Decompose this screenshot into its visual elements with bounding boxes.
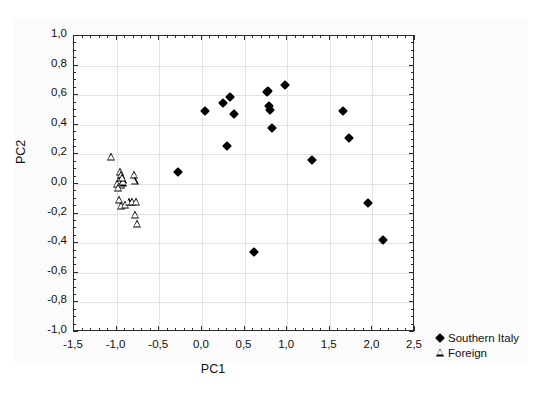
y-axis-tick xyxy=(73,213,78,214)
y-tick-label: 0,8 xyxy=(23,57,67,69)
x-axis-tick xyxy=(244,326,245,331)
data-point-diamond xyxy=(307,155,317,165)
gridline-horizontal xyxy=(74,214,413,215)
y-tick-label: 0,2 xyxy=(23,145,67,157)
y-axis-tick xyxy=(411,250,414,251)
x-axis-tick xyxy=(209,35,210,38)
y-axis-tick xyxy=(409,272,414,273)
legend-item-southern-italy[interactable]: Southern Italy xyxy=(432,330,519,345)
triangle-inner-fill xyxy=(134,221,140,226)
gridline-horizontal xyxy=(74,95,413,96)
x-axis-tick xyxy=(150,35,151,38)
y-axis-tick xyxy=(411,72,414,73)
legend: Southern ItalyForeign xyxy=(432,330,519,360)
plot-area xyxy=(73,35,414,331)
x-axis-tick xyxy=(107,328,108,331)
x-tick-label: 0,5 xyxy=(220,338,268,350)
y-tick-label: 0,0 xyxy=(23,175,67,187)
gridline-horizontal xyxy=(74,154,413,155)
data-point-diamond xyxy=(229,109,239,119)
y-axis-tick xyxy=(73,72,76,73)
y-axis-tick xyxy=(411,190,414,191)
gridline-horizontal xyxy=(74,273,413,274)
x-axis-tick xyxy=(82,328,83,331)
x-axis-tick xyxy=(286,35,287,40)
y-tick-label: -0,8 xyxy=(23,293,67,305)
y-axis-tick xyxy=(411,324,414,325)
y-axis-tick xyxy=(411,146,414,147)
y-axis-tick xyxy=(73,287,76,288)
x-axis-tick xyxy=(397,35,398,38)
x-tick-label: 0,0 xyxy=(177,338,225,350)
y-tick-label: 1,0 xyxy=(23,27,67,39)
y-axis-title-text: PC2 xyxy=(14,140,28,164)
x-axis-tick xyxy=(184,328,185,331)
x-axis-tick xyxy=(192,35,193,38)
x-axis-tick xyxy=(295,328,296,331)
y-tick-label: 0,4 xyxy=(23,116,67,128)
x-axis-tick xyxy=(133,328,134,331)
y-axis-tick xyxy=(73,198,76,199)
gridline-vertical xyxy=(330,36,331,330)
y-axis-tick xyxy=(73,87,76,88)
x-axis-tick xyxy=(303,35,304,38)
y-axis-title: PC2 xyxy=(14,140,28,164)
y-axis-tick xyxy=(73,42,76,43)
y-axis-tick xyxy=(411,139,414,140)
x-axis-tick xyxy=(116,326,117,331)
data-point-triangle xyxy=(133,220,141,228)
y-axis-tick xyxy=(73,279,76,280)
y-axis-tick xyxy=(411,79,414,80)
y-axis-tick xyxy=(411,279,414,280)
gridline-vertical xyxy=(159,36,160,330)
triangle-inner-fill xyxy=(108,155,114,160)
y-axis-tick xyxy=(73,242,78,243)
y-axis-tick xyxy=(411,316,414,317)
y-axis-tick xyxy=(409,94,414,95)
x-axis-tick xyxy=(201,326,202,331)
x-axis-tick xyxy=(99,35,100,38)
data-point-diamond xyxy=(265,105,275,115)
y-axis-tick xyxy=(411,220,414,221)
y-axis-tick xyxy=(73,227,76,228)
data-point-triangle xyxy=(107,153,115,161)
scatter-plot-figure: -1,5-1,0-0,50,00,51,01,52,02,5 1,00,80,6… xyxy=(0,0,542,397)
x-axis-tick xyxy=(167,35,168,38)
y-tick-label: -1,0 xyxy=(23,323,67,335)
y-axis-tick xyxy=(73,176,76,177)
x-axis-tick xyxy=(337,328,338,331)
x-axis-tick xyxy=(295,35,296,38)
x-axis-tick xyxy=(175,35,176,38)
y-axis-tick xyxy=(73,272,78,273)
y-axis-tick xyxy=(73,116,76,117)
x-axis-tick xyxy=(184,35,185,38)
x-tick-label: 1,5 xyxy=(305,338,353,350)
legend-marker-diamond-icon xyxy=(432,332,448,344)
x-axis-tick xyxy=(371,326,372,331)
x-axis-tick xyxy=(107,35,108,38)
x-axis-tick xyxy=(278,35,279,38)
legend-item-foreign[interactable]: Foreign xyxy=(432,345,519,360)
x-axis-tick xyxy=(371,35,372,40)
x-axis-tick xyxy=(354,328,355,331)
x-axis-tick xyxy=(218,35,219,38)
y-tick-label: -0,4 xyxy=(23,234,67,246)
x-axis-tick xyxy=(414,326,415,331)
y-axis-tick xyxy=(73,146,76,147)
x-axis-tick xyxy=(388,328,389,331)
y-axis-tick xyxy=(411,116,414,117)
x-axis-tick xyxy=(388,35,389,38)
x-tick-label: 2,5 xyxy=(390,338,438,350)
y-axis-tick xyxy=(411,205,414,206)
gridline-vertical xyxy=(202,36,203,330)
y-axis-tick xyxy=(409,65,414,66)
y-axis-tick xyxy=(73,79,76,80)
legend-marker-triangle-icon xyxy=(432,347,448,359)
legend-label: Southern Italy xyxy=(448,332,519,344)
y-axis-tick xyxy=(411,257,414,258)
x-axis-tick xyxy=(380,35,381,38)
x-axis-tick xyxy=(252,328,253,331)
y-axis-tick xyxy=(411,57,414,58)
x-axis-tick xyxy=(226,328,227,331)
y-axis-tick xyxy=(73,50,76,51)
